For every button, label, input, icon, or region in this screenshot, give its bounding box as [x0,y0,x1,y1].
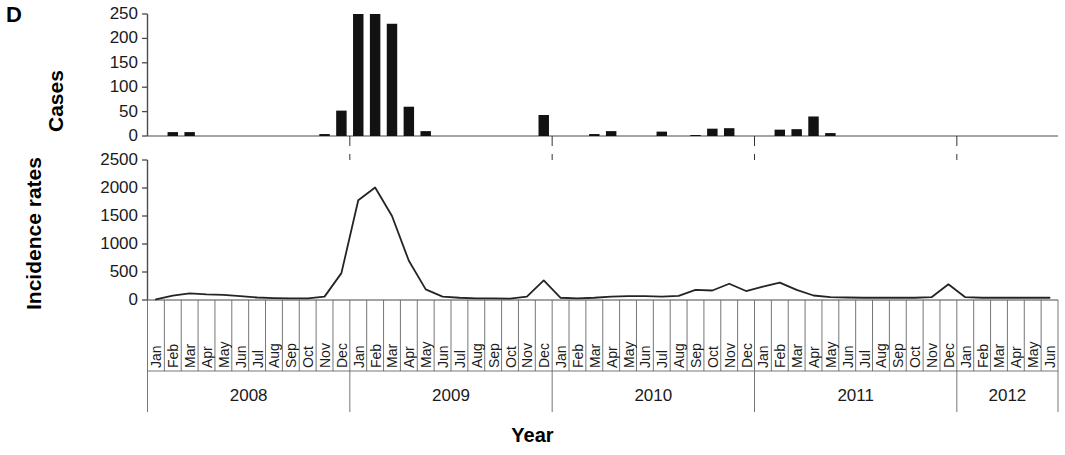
month-label: Mar [384,305,400,368]
month-label: Feb [368,305,384,368]
cases-bar [420,131,430,136]
month-label: Aug [671,305,687,368]
month-label: Aug [873,305,889,368]
month-label: May [621,305,637,368]
month-label: Mar [789,305,805,368]
cases-bar [808,116,818,136]
month-label: Oct [503,305,519,368]
month-label: Oct [907,305,923,368]
cases-bar [336,111,346,136]
cases-bar [319,134,329,136]
month-label: Feb [772,305,788,368]
cases-ytick-label: 200 [80,28,138,48]
month-label: Jan [148,305,164,368]
month-label: Aug [469,305,485,368]
cases-ytick-label: 100 [80,77,138,97]
incidence-ytick-label: 2500 [62,150,138,170]
month-label: May [418,305,434,368]
month-label: Jun [435,305,451,368]
cases-bar [707,129,717,136]
year-label: 2011 [755,386,957,406]
month-label: Oct [705,305,721,368]
month-label: May [216,305,232,368]
x-axis-title: Year [0,424,1065,447]
month-label: Sep [486,305,502,368]
month-label: Sep [688,305,704,368]
cases-axis-title: Cases [44,22,68,132]
month-label: Jan [755,305,771,368]
cases-bar [606,131,616,136]
cases-ytick-label: 250 [80,4,138,24]
month-label: Mar [182,305,198,368]
cases-bar [791,129,801,136]
month-label: Jun [233,305,249,368]
month-label: Dec [941,305,957,368]
incidence-ytick-label: 1000 [62,234,138,254]
month-label: Jan [351,305,367,368]
incidence-rate-line [156,187,1050,299]
year-label: 2009 [350,386,552,406]
month-label: Oct [300,305,316,368]
month-label: Dec [739,305,755,368]
month-label: Nov [317,305,333,368]
month-label: Feb [570,305,586,368]
cases-bar [353,14,363,136]
incidence-ytick-label: 1500 [62,206,138,226]
cases-bar [404,107,414,136]
year-label: 2008 [148,386,350,406]
month-label: Mar [991,305,1007,368]
month-label: Feb [165,305,181,368]
cases-bar [184,132,194,136]
month-label: Jul [250,305,266,368]
month-label: Nov [722,305,738,368]
month-label: Jan [958,305,974,368]
month-label: Jul [857,305,873,368]
cases-bar [724,128,734,136]
cases-bar [539,115,549,136]
cases-bar [657,132,667,136]
incidence-rates-axis-title: Incidence rates [22,150,46,310]
month-label: Apr [401,305,417,368]
month-label: May [823,305,839,368]
month-label: Jun [1042,305,1058,368]
cases-bar [825,133,835,136]
month-label: Apr [199,305,215,368]
month-label: Apr [1008,305,1024,368]
month-label: Sep [890,305,906,368]
month-label: Aug [266,305,282,368]
month-label: Mar [587,305,603,368]
cases-ytick-label: 0 [80,126,138,146]
cases-bar [168,132,178,136]
month-label: Jul [654,305,670,368]
month-label: Jul [452,305,468,368]
cases-bar [370,14,380,136]
month-label: Dec [334,305,350,368]
month-label: Nov [519,305,535,368]
incidence-ytick-label: 2000 [62,178,138,198]
cases-ytick-label: 50 [80,102,138,122]
cases-ytick-label: 150 [80,53,138,73]
month-label: May [1025,305,1041,368]
year-label: 2010 [552,386,754,406]
year-label: 2012 [957,386,1058,406]
month-label: Jun [840,305,856,368]
panel-letter: D [6,2,22,28]
cases-bar [690,135,700,136]
cases-bar [589,134,599,136]
month-label: Jan [553,305,569,368]
month-label: Sep [283,305,299,368]
cases-bar [387,24,397,136]
month-label: Dec [536,305,552,368]
incidence-ytick-label: 0 [62,290,138,310]
month-label: Nov [924,305,940,368]
month-label: Jun [637,305,653,368]
figure-panel-d: D Cases Incidence rates 050100150200250 … [0,0,1065,455]
month-label: Apr [806,305,822,368]
incidence-ytick-label: 500 [62,262,138,282]
cases-bar [775,130,785,136]
month-label: Feb [975,305,991,368]
month-label: Apr [604,305,620,368]
